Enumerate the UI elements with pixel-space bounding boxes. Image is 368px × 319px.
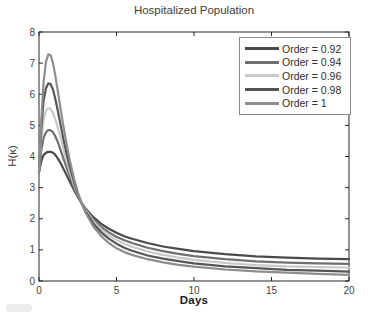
legend-label: Order = 0.96 bbox=[282, 70, 341, 82]
series-line bbox=[39, 108, 349, 267]
legend-line-swatch bbox=[245, 74, 279, 77]
y-tick-label: 3 bbox=[29, 182, 35, 193]
x-axis-label: Days bbox=[39, 294, 349, 306]
y-tick-label: 8 bbox=[29, 27, 35, 38]
y-tick-label: 7 bbox=[29, 58, 35, 69]
legend-label: Order = 0.92 bbox=[282, 43, 341, 55]
legend-item: Order = 0.98 bbox=[245, 83, 344, 97]
legend-line-swatch bbox=[245, 102, 279, 105]
y-tick-label: 2 bbox=[29, 213, 35, 224]
legend-box: Order = 0.92Order = 0.94Order = 0.96Orde… bbox=[239, 37, 351, 115]
chart-title: Hospitalized Population bbox=[39, 4, 349, 16]
figure-window: Hospitalized Population 0510152001234567… bbox=[0, 0, 368, 319]
y-tick-label: 1 bbox=[29, 244, 35, 255]
series-line bbox=[39, 152, 349, 259]
legend-item: Order = 0.96 bbox=[245, 69, 344, 83]
legend-line-swatch bbox=[245, 61, 279, 64]
y-axis-label: H(κ) bbox=[6, 145, 18, 167]
legend-label: Order = 0.94 bbox=[282, 56, 341, 68]
legend-label: Order = 0.98 bbox=[282, 84, 341, 96]
legend-item: Order = 1 bbox=[245, 96, 344, 110]
y-tick-label: 4 bbox=[29, 151, 35, 162]
y-tick-label: 5 bbox=[29, 120, 35, 131]
smudge-artifact bbox=[6, 304, 32, 312]
legend-line-swatch bbox=[245, 47, 279, 50]
legend-label: Order = 1 bbox=[282, 97, 327, 109]
legend-item: Order = 0.94 bbox=[245, 56, 344, 70]
y-tick-label: 6 bbox=[29, 89, 35, 100]
legend-line-swatch bbox=[245, 88, 279, 91]
legend-item: Order = 0.92 bbox=[245, 42, 344, 56]
series-line bbox=[39, 130, 349, 264]
y-tick-label: 0 bbox=[29, 276, 35, 287]
